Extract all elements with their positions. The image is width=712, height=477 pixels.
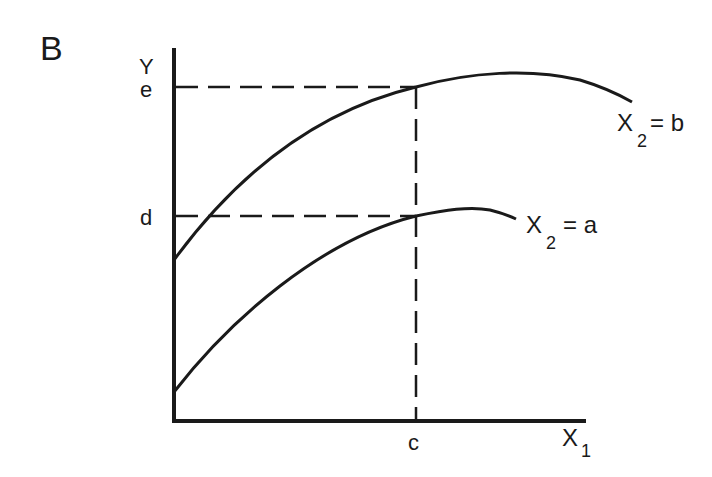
interaction-diagram: B Y X 1 e d c X 2 = b X 2 = a <box>0 0 712 477</box>
x-axis-label: X 1 <box>562 424 591 461</box>
curve-label-a: X 2 = a <box>526 211 598 253</box>
x-axis-label-main: X <box>562 424 578 451</box>
y-axis-label: Y <box>139 54 154 79</box>
panel-label: B <box>40 29 63 67</box>
curve-label-a-main: X <box>526 211 542 238</box>
curve-label-b-sub: 2 <box>637 131 647 151</box>
x-tick-c: c <box>408 430 419 455</box>
x-axis-label-sub: 1 <box>581 441 591 461</box>
curve-label-b-main: X <box>617 109 633 136</box>
curve-label-b-rest: = b <box>650 109 684 136</box>
curve-x2-a <box>174 208 516 392</box>
curve-label-a-sub: 2 <box>546 233 556 253</box>
y-tick-e: e <box>140 77 152 102</box>
curve-label-a-rest: = a <box>563 211 598 238</box>
curve-label-b: X 2 = b <box>617 109 684 151</box>
y-tick-d: d <box>140 205 152 230</box>
